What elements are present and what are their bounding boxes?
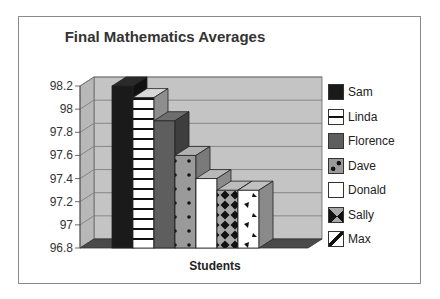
y-tick-label: 96.8 [50,241,74,255]
y-tick-label: 97 [60,218,74,232]
legend-item-max: Max [328,227,395,252]
y-tick-label: 98.2 [50,79,74,93]
legend-item-dave: Dave [328,154,395,179]
legend-label: Sally [348,208,374,222]
legend-item-florence: Florence [328,129,395,154]
legend-label: Dave [348,159,376,173]
legend-swatch [328,133,344,149]
legend-swatch [328,158,344,174]
legend-swatch [328,84,344,100]
legend-label: Max [348,232,371,246]
y-tick-label: 97.6 [50,148,74,162]
legend-item-sam: Sam [328,80,395,105]
legend-label: Linda [348,110,377,124]
legend-swatch [328,182,344,198]
legend-label: Florence [348,134,395,148]
legend-item-linda: Linda [328,105,395,130]
legend-swatch [328,207,344,223]
bar-max [238,181,273,248]
legend-swatch [328,231,344,247]
y-tick-label: 97.2 [50,195,74,209]
chart-legend: SamLindaFlorenceDaveDonaldSallyMax [328,80,395,252]
legend-label: Sam [348,85,373,99]
legend-label: Donald [348,183,386,197]
legend-swatch [328,109,344,125]
y-tick-label: 98 [60,102,74,116]
y-tick-label: 97.4 [50,172,74,186]
x-axis-label: Students [140,259,290,273]
legend-item-donald: Donald [328,178,395,203]
legend-item-sally: Sally [328,203,395,228]
y-tick-label: 97.8 [50,125,74,139]
